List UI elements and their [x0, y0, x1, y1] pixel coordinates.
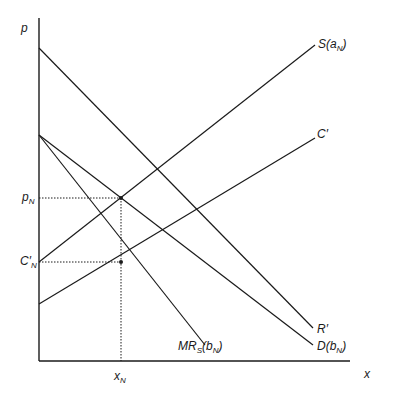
equilibrium-point-upper: [119, 196, 123, 200]
p-n-label: pN: [22, 191, 34, 208]
equilibrium-point-lower: [119, 260, 123, 264]
demand-line: [39, 135, 313, 345]
c-prime-line: [39, 138, 315, 304]
r-prime-label: R′: [317, 323, 328, 335]
c-prime-n-label: C′N: [20, 255, 37, 272]
c-prime-label: C′: [317, 128, 328, 140]
supply-line: [39, 45, 315, 262]
supply-label: S(aN): [318, 38, 346, 55]
marginal-revenue-line: [39, 135, 205, 345]
y-axis-label: p: [21, 22, 28, 34]
x-axis-label: x: [364, 368, 370, 380]
demand-label: D(bN): [317, 340, 346, 357]
x-n-label: xN: [114, 370, 126, 387]
marginal-revenue-label: MRS(bN): [178, 340, 222, 357]
r-prime-line: [39, 48, 313, 328]
